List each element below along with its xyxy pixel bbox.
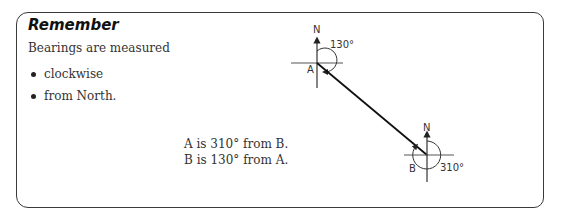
bearing-diagram: N 130° A N 310° B: [0, 0, 564, 217]
bearing-label-130: 130°: [330, 39, 354, 50]
north-label-a: N: [313, 24, 320, 35]
point-a-label: A: [307, 64, 314, 75]
angle-arc-130: [317, 48, 337, 72]
north-label-b: N: [423, 122, 430, 133]
line-ab: [317, 63, 427, 155]
bearing-label-310: 310°: [440, 162, 464, 173]
point-b-label: B: [409, 163, 416, 174]
